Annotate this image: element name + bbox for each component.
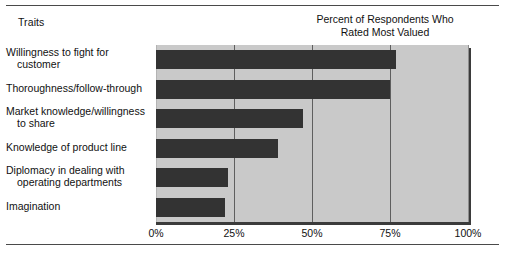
category-label-list: Willingness to fight forcustomerThorough… xyxy=(18,45,156,222)
gridline-50 xyxy=(312,45,313,222)
category-label: Imagination xyxy=(6,201,156,213)
category-label: Thoroughness/follow-through xyxy=(6,83,156,95)
gridline-0 xyxy=(156,45,157,222)
chart-title-line-1: Percent of Respondents Who xyxy=(290,13,480,26)
x-axis-line xyxy=(156,222,471,225)
chart-title: Percent of Respondents Who Rated Most Va… xyxy=(290,13,480,38)
bar xyxy=(156,50,396,69)
x-tick-label: 25% xyxy=(223,227,244,239)
gridline-75 xyxy=(390,45,391,222)
plot-area xyxy=(156,45,469,222)
category-label: Market knowledge/willingnessto share xyxy=(6,106,156,129)
category-label-line: operating departments xyxy=(6,177,156,189)
bar xyxy=(156,168,228,187)
gridline-25 xyxy=(234,45,235,222)
chart-title-line-2: Rated Most Valued xyxy=(290,26,480,39)
category-label: Knowledge of product line xyxy=(6,142,156,154)
category-label-line: to share xyxy=(6,118,156,130)
category-label-line: Thoroughness/follow-through xyxy=(6,83,156,95)
bar xyxy=(156,80,390,99)
bar xyxy=(156,198,225,217)
category-label-line: Knowledge of product line xyxy=(6,142,156,154)
top-divider xyxy=(6,5,499,6)
x-tick-label: 100% xyxy=(455,227,482,239)
category-label: Willingness to fight forcustomer xyxy=(6,47,156,70)
x-tick-label: 50% xyxy=(301,227,322,239)
category-label: Diplomacy in dealing withoperating depar… xyxy=(6,165,156,188)
bar xyxy=(156,109,303,128)
bottom-divider xyxy=(6,244,499,245)
x-tick-label: 0% xyxy=(148,227,163,239)
x-tick-label: 75% xyxy=(379,227,400,239)
category-label-line: customer xyxy=(6,59,156,71)
bar xyxy=(156,139,278,158)
traits-column-header: Traits xyxy=(18,16,44,28)
category-label-line: Imagination xyxy=(6,201,156,213)
